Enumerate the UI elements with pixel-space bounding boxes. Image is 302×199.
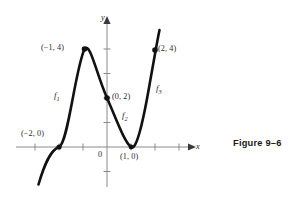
- label-f2-sub: 2: [125, 115, 128, 122]
- label-f1-sub: 1: [57, 95, 60, 102]
- origin-label: 0: [98, 150, 102, 159]
- dot-neg1-4: [82, 46, 88, 52]
- figure-page: x y 0 (−1, 4) (0, 2) (−2, 0) (1, 0) (2, …: [0, 0, 302, 199]
- x-axis-label: x: [196, 141, 200, 151]
- dot-neg2-0: [56, 144, 61, 149]
- label-point-neg1-4: (−1, 4): [41, 43, 64, 52]
- curve-f1: [39, 49, 85, 185]
- figure-caption: Figure 9–6: [233, 138, 282, 148]
- label-point-0-2: (0, 2): [112, 92, 130, 101]
- label-function-f3: f3: [156, 83, 162, 95]
- y-axis-label: y: [101, 12, 105, 22]
- dot-2-4: [152, 47, 158, 53]
- dot-0-2: [104, 95, 110, 101]
- label-point-2-4: (2, 4): [158, 44, 176, 53]
- x-axis-arrowhead: [188, 143, 196, 150]
- label-f3-sub: 3: [159, 88, 162, 95]
- label-function-f2: f2: [122, 110, 128, 122]
- graph-canvas: [0, 0, 302, 199]
- label-function-f1: f1: [54, 90, 60, 102]
- label-point-1-0: (1, 0): [120, 152, 138, 161]
- dot-1-0: [129, 145, 134, 150]
- label-point-neg2-0: (−2, 0): [21, 129, 44, 138]
